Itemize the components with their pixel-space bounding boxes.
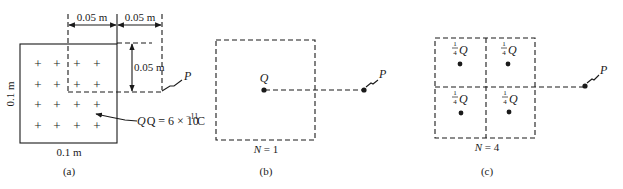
panel-c: 1 4 Q 1 4 Q 1 4 Q 1 4 Q P bbox=[435, 38, 608, 178]
side-label-left: 0.1 m bbox=[4, 81, 16, 107]
p-leader bbox=[162, 80, 182, 91]
svg-text:+: + bbox=[34, 56, 41, 71]
n-label: N = 4 bbox=[474, 141, 500, 153]
point-p-label: P bbox=[599, 63, 608, 77]
point-p-dot bbox=[361, 87, 366, 92]
p-leader bbox=[587, 75, 599, 83]
svg-text:1: 1 bbox=[503, 89, 507, 97]
svg-text:1: 1 bbox=[453, 40, 457, 48]
svg-text:+: + bbox=[34, 118, 41, 133]
figure-canvas: + + + + + + + + + + + + + + + + bbox=[0, 0, 623, 189]
svg-text:+: + bbox=[73, 118, 80, 133]
side-label-bottom: 0.1 m bbox=[56, 146, 82, 158]
svg-text:1: 1 bbox=[453, 89, 457, 97]
svg-text:Q: Q bbox=[508, 43, 517, 57]
panel-b: Q P NN = 1 = 1 (b) bbox=[216, 40, 387, 178]
dim-label-top-left: 0.05 m bbox=[77, 11, 108, 23]
panel-a: + + + + + + + + + + + + + + + + bbox=[0, 0, 205, 178]
outer-square bbox=[435, 38, 535, 138]
svg-text:4: 4 bbox=[502, 49, 506, 57]
svg-text:+: + bbox=[53, 97, 60, 112]
svg-text:+: + bbox=[34, 97, 41, 112]
svg-text:4: 4 bbox=[453, 49, 457, 57]
svg-text:+: + bbox=[93, 118, 100, 133]
caption-c: (c) bbox=[481, 165, 494, 178]
quarter-charge-tl: 1 4 Q bbox=[452, 40, 468, 66]
svg-text:Q: Q bbox=[459, 43, 468, 57]
charge-label: Q bbox=[260, 71, 269, 85]
charge-dot bbox=[261, 87, 266, 92]
svg-text:+: + bbox=[93, 56, 100, 71]
svg-text:Q: Q bbox=[459, 92, 468, 106]
plus-grid: + + + + + + + + + + + + + + + + bbox=[34, 56, 100, 133]
svg-text:+: + bbox=[53, 56, 60, 71]
point-p-label: P bbox=[183, 69, 192, 83]
svg-text:+: + bbox=[34, 77, 41, 92]
svg-text:+: + bbox=[93, 77, 100, 92]
svg-text:4: 4 bbox=[503, 98, 507, 106]
n-label: NN = 1 = 1 bbox=[253, 143, 279, 155]
svg-text:4: 4 bbox=[453, 98, 457, 106]
p-leader bbox=[366, 80, 378, 87]
svg-text:+: + bbox=[73, 56, 80, 71]
dim-label-top-right: 0.05 m bbox=[125, 11, 156, 23]
quarter-charge-br: 1 4 Q bbox=[502, 89, 518, 114]
svg-text:+: + bbox=[73, 77, 80, 92]
dashed-construction bbox=[68, 14, 163, 92]
svg-text:+: + bbox=[93, 97, 100, 112]
dim-label-right: 0.05 m bbox=[134, 61, 165, 73]
svg-text:+: + bbox=[73, 97, 80, 112]
caption-b: (b) bbox=[260, 165, 273, 178]
svg-text:+: + bbox=[53, 77, 60, 92]
svg-text:+: + bbox=[53, 118, 60, 133]
svg-text:1: 1 bbox=[502, 40, 506, 48]
quarter-charge-bl: 1 4 Q bbox=[452, 89, 468, 115]
point-p-dot bbox=[582, 83, 587, 88]
svg-text:Q: Q bbox=[509, 92, 518, 106]
caption-a: (a) bbox=[63, 165, 76, 178]
charge-unit: C bbox=[197, 114, 205, 128]
point-p-label: P bbox=[378, 67, 387, 81]
quarter-charge-tr: 1 4 Q bbox=[501, 40, 517, 66]
